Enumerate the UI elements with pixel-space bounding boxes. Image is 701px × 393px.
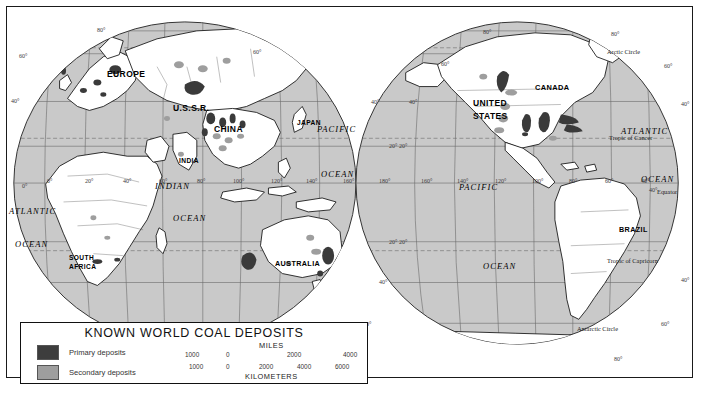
scale-tick-km-1: 0	[226, 363, 230, 370]
scale-tick-miles-2: 2000	[287, 351, 301, 358]
scale-tick-km-2: 2000	[259, 363, 273, 370]
scale-tick-miles-0: 1000	[185, 351, 199, 358]
scale-tick-miles-3: 4000	[343, 351, 357, 358]
scale-tick-km-4: 6000	[335, 363, 349, 370]
legend-swatch-primary	[37, 345, 59, 360]
legend-label-secondary: Secondary deposits	[69, 368, 136, 377]
hemisphere-eastern	[8, 19, 370, 355]
scale-tick-km-0: 1000	[189, 363, 203, 370]
map-legend: KNOWN WORLD COAL DEPOSITS Primary deposi…	[20, 322, 368, 384]
scale-tick-miles-1: 0	[226, 351, 230, 358]
map-frame: EUROPE U.S.S.R. CHINA JAPAN INDIA SOUTH …	[6, 6, 693, 378]
legend-label-primary: Primary deposits	[69, 348, 126, 357]
scale-tick-km-3: 4000	[297, 363, 311, 370]
legend-title: KNOWN WORLD COAL DEPOSITS	[21, 326, 367, 340]
legend-swatch-secondary	[37, 365, 59, 380]
scale-caption-kilometers: KILOMETERS	[245, 372, 298, 381]
hemisphere-western	[356, 22, 691, 355]
coal-deposits-map-page: EUROPE U.S.S.R. CHINA JAPAN INDIA SOUTH …	[0, 0, 701, 393]
scale-caption-miles: MILES	[259, 341, 284, 350]
